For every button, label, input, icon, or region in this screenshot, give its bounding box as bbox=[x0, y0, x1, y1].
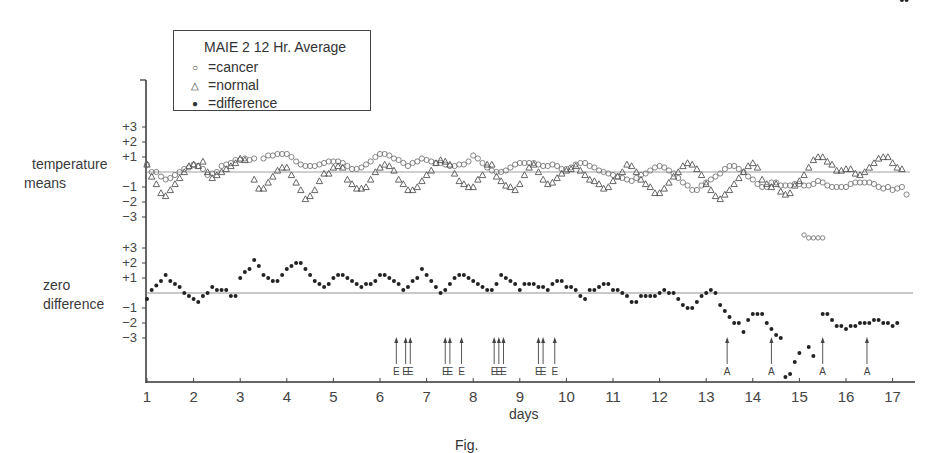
y-tick-label: +1 bbox=[97, 149, 137, 164]
upper-panel-label-2: means bbox=[24, 176, 66, 190]
legend-item-cancer: ○ =cancer bbox=[188, 59, 258, 75]
y-tick-label: +3 bbox=[97, 240, 137, 255]
legend-title: MAIE 2 12 Hr. Average bbox=[204, 39, 346, 55]
event-label: E bbox=[538, 366, 548, 377]
x-tick-label: 6 bbox=[368, 388, 392, 405]
x-tick-label: 3 bbox=[228, 388, 252, 405]
x-tick-label: 8 bbox=[461, 388, 485, 405]
figure-caption: Fig. bbox=[455, 437, 478, 453]
legend-label: =normal bbox=[208, 77, 259, 93]
y-tick-label: −1 bbox=[97, 300, 137, 315]
legend-item-difference: ● =difference bbox=[188, 95, 277, 111]
event-label: E bbox=[498, 366, 508, 377]
open-triangle-icon: △ bbox=[188, 80, 202, 91]
x-tick-label: 11 bbox=[601, 388, 625, 405]
event-label: E bbox=[457, 366, 467, 377]
event-label: A bbox=[766, 366, 776, 377]
y-tick-label: −2 bbox=[97, 315, 137, 330]
y-tick-label: −2 bbox=[97, 194, 137, 209]
legend-item-normal: △ =normal bbox=[188, 77, 259, 93]
x-tick-label: 5 bbox=[321, 388, 345, 405]
x-tick-label: 2 bbox=[182, 388, 206, 405]
lower-panel-label-2: difference bbox=[43, 297, 104, 311]
event-label: A bbox=[818, 366, 828, 377]
legend: MAIE 2 12 Hr. Average ○ =cancer △ =norma… bbox=[173, 30, 371, 111]
open-circle-icon: ○ bbox=[188, 62, 202, 73]
x-tick-label: 10 bbox=[554, 388, 578, 405]
event-label: E bbox=[550, 366, 560, 377]
legend-label: =difference bbox=[208, 95, 277, 111]
event-label: A bbox=[862, 366, 872, 377]
y-tick-label: +3 bbox=[97, 119, 137, 134]
legend-label: =cancer bbox=[208, 59, 258, 75]
y-tick-label: +2 bbox=[97, 255, 137, 270]
x-tick-label: 17 bbox=[881, 388, 905, 405]
y-tick-label: −1 bbox=[97, 179, 137, 194]
event-label: E bbox=[405, 366, 415, 377]
x-tick-label: 14 bbox=[741, 388, 765, 405]
y-tick-label: +2 bbox=[97, 134, 137, 149]
x-tick-label: 13 bbox=[694, 388, 718, 405]
x-tick-label: 7 bbox=[415, 388, 439, 405]
y-tick-label: −3 bbox=[97, 209, 137, 224]
event-label: E bbox=[445, 366, 455, 377]
x-tick-label: 16 bbox=[834, 388, 858, 405]
y-tick-label: −3 bbox=[97, 330, 137, 345]
event-label: A bbox=[722, 366, 732, 377]
x-axis-label: days bbox=[509, 407, 539, 421]
x-tick-label: 4 bbox=[275, 388, 299, 405]
x-tick-label: 15 bbox=[787, 388, 811, 405]
y-tick-label: +1 bbox=[97, 270, 137, 285]
lower-panel-label-1: zero bbox=[43, 278, 70, 292]
x-tick-label: 9 bbox=[508, 388, 532, 405]
x-tick-label: 1 bbox=[135, 388, 159, 405]
filled-circle-icon: ● bbox=[188, 98, 202, 109]
x-tick-label: 12 bbox=[648, 388, 672, 405]
